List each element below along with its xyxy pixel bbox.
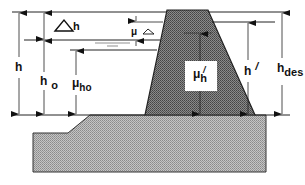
dam-cross-section-diagram [0, 0, 305, 185]
label-mu-h-prime-superscript: / [203, 65, 206, 75]
foundation-block [33, 115, 266, 172]
delta-triangle-icon [55, 20, 73, 31]
label-mu-h0-subscript: ho [79, 82, 91, 93]
label-delta-h: h [73, 21, 80, 32]
label-h-prime: h/ [244, 65, 258, 77]
label-h: h [15, 61, 22, 73]
label-mu-delta: μ [131, 27, 137, 37]
label-h-des-subscript: des [284, 66, 303, 78]
label-h-prime-superscript: / [255, 60, 258, 72]
label-h0: ho [40, 75, 58, 87]
label-mu-h-prime: μh/ [193, 68, 206, 80]
label-h0-subscript: o [51, 79, 58, 91]
label-h-des: hdes [277, 62, 303, 74]
mu-delta-triangle-icon [143, 29, 154, 34]
label-mu-h0: μho [72, 77, 92, 89]
